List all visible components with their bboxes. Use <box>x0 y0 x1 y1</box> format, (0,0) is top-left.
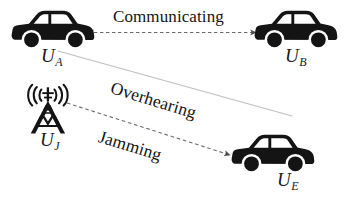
node-label-uj-base: U <box>40 129 54 150</box>
node-label-ue-base: U <box>277 169 291 190</box>
node-ub[interactable] <box>255 11 338 50</box>
node-label-ua-subscript: A <box>55 55 62 69</box>
car-icon <box>232 135 315 174</box>
node-label-ue-subscript: E <box>291 179 298 193</box>
node-label-ub: UB <box>285 46 307 68</box>
edge-label-communicating: Communicating <box>113 8 224 25</box>
car-icon <box>255 11 338 50</box>
node-label-ua-base: U <box>41 45 55 66</box>
diagram-canvas: Communicating Overhearing Jamming UA UB … <box>0 0 347 201</box>
car-icon <box>12 11 95 50</box>
node-label-uj: UJ <box>40 130 60 152</box>
node-ua[interactable] <box>12 11 95 50</box>
node-uj[interactable] <box>28 85 68 134</box>
node-label-ua: UA <box>41 46 63 68</box>
node-label-ub-subscript: B <box>299 55 306 69</box>
node-label-ue: UE <box>277 170 299 192</box>
node-label-ub-base: U <box>285 45 299 66</box>
node-ue[interactable] <box>232 135 315 174</box>
radio-tower-icon <box>28 85 68 134</box>
node-label-uj-subscript: J <box>54 139 59 153</box>
